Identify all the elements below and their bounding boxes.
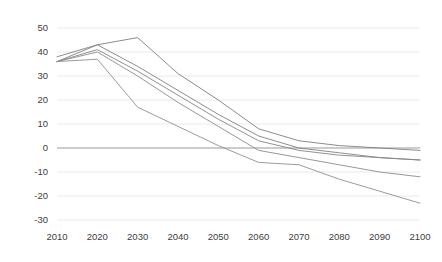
x-axis-tick-label: 2080 [317, 232, 361, 242]
y-axis-tick-label: 50 [14, 23, 48, 33]
line-chart: 50403020100-10-20-30 2010202020302040205… [0, 0, 442, 262]
data-line-series-3 [57, 50, 420, 160]
data-line-series-1 [57, 38, 420, 151]
y-axis-tick-label: 40 [14, 47, 48, 57]
x-axis-tick-label: 2010 [35, 232, 79, 242]
x-axis-tick-label: 2040 [156, 232, 200, 242]
x-axis-tick-label: 2090 [358, 232, 402, 242]
y-axis-tick-label: 0 [14, 143, 48, 153]
x-axis-tick-label: 2060 [237, 232, 281, 242]
x-axis-tick-label: 2100 [398, 232, 442, 242]
y-axis-tick-label: -20 [14, 191, 48, 201]
chart-plot-area [0, 0, 442, 262]
x-axis-tick-label: 2020 [75, 232, 119, 242]
x-axis-tick-label: 2030 [116, 232, 160, 242]
x-axis-tick-label: 2050 [196, 232, 240, 242]
y-axis-tick-label: 30 [14, 71, 48, 81]
y-axis-tick-label: 20 [14, 95, 48, 105]
y-axis-tick-label: -30 [14, 215, 48, 225]
data-line-series-2 [57, 45, 420, 160]
y-axis-tick-label: 10 [14, 119, 48, 129]
y-axis-tick-label: -10 [14, 167, 48, 177]
data-line-series-5 [57, 59, 420, 203]
x-axis-tick-label: 2070 [277, 232, 321, 242]
